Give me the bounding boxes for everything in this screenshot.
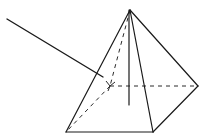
square-pyramid-diagram xyxy=(0,0,214,140)
background xyxy=(0,0,214,140)
